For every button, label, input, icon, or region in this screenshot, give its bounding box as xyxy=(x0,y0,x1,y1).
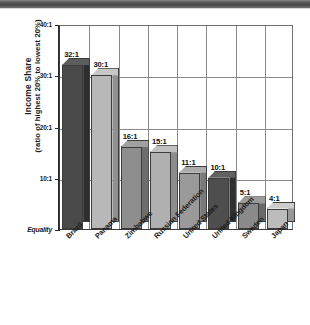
bar-value-label: 11:1 xyxy=(181,158,195,167)
bar-front xyxy=(91,75,112,229)
y-axis-label: 10:1 xyxy=(0,175,52,182)
bar-side xyxy=(83,58,90,222)
header-strip xyxy=(0,0,310,9)
y-axis-label: 20:1 xyxy=(0,124,52,131)
bar-value-label: 30:1 xyxy=(93,60,108,69)
bar-brazil xyxy=(62,65,83,229)
bar-value-label: 32:1 xyxy=(64,50,79,59)
bar-value-label: 15:1 xyxy=(152,137,167,146)
plot-area: 32:130:116:115:111:110:15:14:1 xyxy=(59,25,293,230)
y-axis-label: 40:1 xyxy=(0,21,52,28)
bar-side xyxy=(112,68,119,222)
y-axis-label-equality: Equality xyxy=(0,226,52,233)
bar-value-label: 16:1 xyxy=(123,132,138,141)
y-axis-label: 30:1 xyxy=(0,72,52,79)
bar-panama xyxy=(91,75,112,229)
bar-value-label: 10:1 xyxy=(210,163,225,172)
bar-front xyxy=(62,65,83,229)
bar-value-label: 4:1 xyxy=(269,194,280,203)
